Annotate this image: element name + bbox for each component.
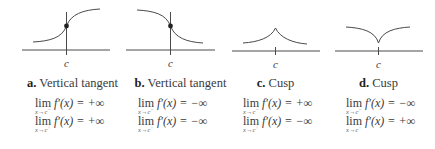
lim-expression: f′(x) = +∞ (54, 96, 104, 110)
lim-subscript: x→c (35, 126, 47, 133)
graph-d-cusp-down (335, 27, 423, 55)
caption: d. Cusp (326, 76, 431, 91)
lim-side: − (358, 107, 361, 112)
caption-title: Cusp (372, 76, 398, 90)
caption-letter: d. (359, 76, 369, 90)
lim-side: + (47, 125, 50, 130)
point-dot (64, 24, 69, 29)
axis-label-c-c: c (273, 58, 278, 70)
limit-left-c: limx→c− f′(x) = +∞ (243, 96, 312, 111)
caption-letter: a. (27, 76, 36, 90)
curve-right (379, 27, 411, 43)
axis-label-c-a: c (64, 57, 69, 69)
limit-left-b: limx→c− f′(x) = −∞ (138, 96, 207, 111)
lim-side: − (47, 107, 50, 112)
caption-letter: c. (257, 76, 266, 90)
lim-side: + (150, 125, 153, 130)
axis-label-c-d: c (376, 58, 381, 70)
curve-right (276, 28, 308, 44)
lim-expression: f′(x) = +∞ (262, 96, 312, 110)
axis-label-c-b: c (168, 57, 173, 69)
graph-c-cusp-up (232, 28, 320, 55)
graph-a-vertical-tangent-increasing (22, 9, 110, 55)
limit-left-d: limx→c− f′(x) = −∞ (346, 96, 415, 111)
panel-c: c. Cusp (223, 76, 328, 91)
caption-title: Cusp (269, 76, 295, 90)
lim-side: − (255, 107, 258, 112)
lim-side: − (150, 107, 153, 112)
caption: c. Cusp (223, 76, 328, 91)
lim-side: + (358, 125, 361, 130)
caption-letter: b. (135, 76, 145, 90)
lim-subscript: x→c (346, 126, 358, 133)
curve-left (243, 28, 276, 43)
panel-d: d. Cusp (326, 76, 431, 91)
lim-expression: f′(x) = +∞ (54, 114, 104, 128)
lim-side: + (255, 125, 258, 130)
lim-expression: f′(x) = −∞ (262, 114, 312, 128)
graph-b-vertical-tangent-decreasing (126, 10, 215, 55)
lim-subscript: x→c (243, 126, 255, 133)
limit-left-a: limx→c− f′(x) = +∞ (35, 96, 104, 111)
lim-expression: f′(x) = −∞ (365, 96, 415, 110)
point-dot (168, 24, 173, 29)
caption: b. Vertical tangent (128, 76, 233, 91)
limit-right-c: limx→c+ f′(x) = −∞ (243, 114, 312, 129)
lim-subscript: x→c (138, 126, 150, 133)
lim-expression: f′(x) = −∞ (157, 96, 207, 110)
curve-left (346, 27, 379, 43)
panel-a: a. Vertical tangent (20, 76, 125, 91)
caption-title: Vertical tangent (39, 76, 118, 90)
caption: a. Vertical tangent (20, 76, 125, 91)
graphs-canvas: c c c c (0, 0, 435, 75)
lim-expression: f′(x) = −∞ (157, 114, 207, 128)
caption-title: Vertical tangent (148, 76, 227, 90)
limit-right-d: limx→c+ f′(x) = +∞ (346, 114, 415, 129)
limit-right-a: limx→c+ f′(x) = +∞ (35, 114, 104, 129)
lim-expression: f′(x) = +∞ (365, 114, 415, 128)
limit-right-b: limx→c+ f′(x) = −∞ (138, 114, 207, 129)
panel-b: b. Vertical tangent (128, 76, 233, 91)
